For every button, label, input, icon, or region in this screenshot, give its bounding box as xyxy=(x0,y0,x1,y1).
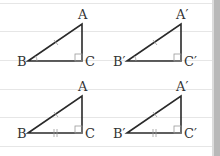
vertex-label-c: C xyxy=(85,127,95,140)
right-angle-mark xyxy=(174,54,181,61)
vertex-label-c: C xyxy=(85,55,95,68)
triangle-abc-top xyxy=(28,24,82,61)
vertex-label-a-prime: A′ xyxy=(176,8,188,21)
right-angle-mark xyxy=(75,126,82,133)
vertex-label-b: B xyxy=(17,127,27,140)
triangle-abc-prime-top xyxy=(127,24,181,61)
right-angle-mark xyxy=(75,54,82,61)
vertex-label-b-prime: B′ xyxy=(113,127,126,140)
right-angle-mark xyxy=(174,126,181,133)
vertex-label-a: A xyxy=(78,80,87,93)
diagram-page: A B C A′ B′ C′ A B C A′ B′ C′ xyxy=(0,0,220,156)
vertex-label-b: B xyxy=(17,55,27,68)
vertex-label-a: A xyxy=(78,8,87,21)
vertex-label-b-prime: B′ xyxy=(113,55,126,68)
triangle-abc-prime-bottom xyxy=(127,96,181,137)
vertex-label-c-prime: C′ xyxy=(184,127,197,140)
vertex-label-c-prime: C′ xyxy=(184,55,197,68)
triangle-abc-bottom xyxy=(28,96,82,137)
vertex-label-a-prime: A′ xyxy=(176,80,188,93)
